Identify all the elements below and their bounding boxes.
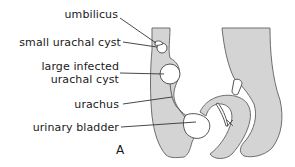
- label-umbilicus: umbilicus: [65, 8, 119, 21]
- umbilicus-shape: [155, 41, 163, 45]
- tubular-structure: [232, 79, 242, 95]
- label-large-infected-line2: urachal cyst: [41, 73, 119, 86]
- label-large-infected-line1: large infected: [41, 60, 119, 73]
- inner-canal: [216, 103, 228, 126]
- label-small-urachal-cyst: small urachal cyst: [19, 36, 121, 49]
- label-urachus: urachus: [74, 98, 119, 111]
- label-large-infected-urachal-cyst: large infected urachal cyst: [41, 60, 119, 86]
- panel-letter: A: [116, 144, 124, 157]
- urinary-bladder-shape: [183, 114, 209, 139]
- label-urinary-bladder: urinary bladder: [33, 121, 119, 134]
- leader-umbilicus: [120, 18, 156, 43]
